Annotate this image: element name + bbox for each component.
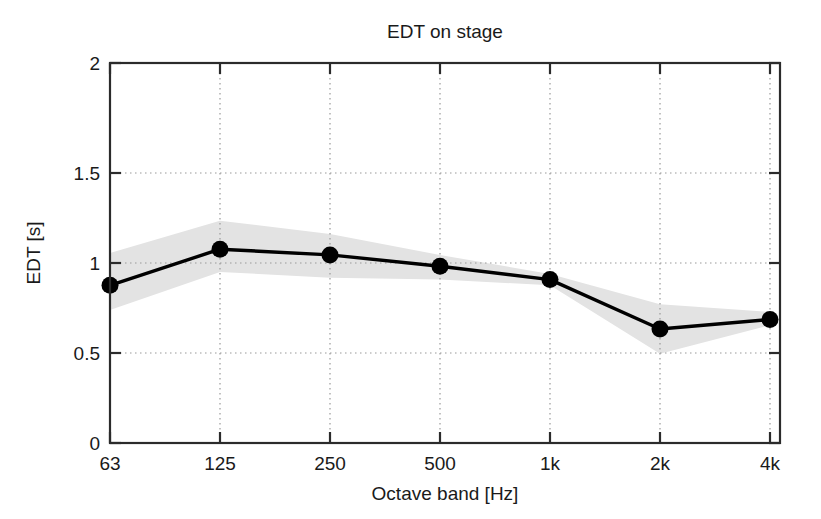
data-point-2k bbox=[652, 321, 669, 338]
y-tick-label-2: 2 bbox=[89, 53, 100, 74]
x-tick-label-4k: 4k bbox=[760, 453, 781, 474]
data-point-500 bbox=[432, 258, 449, 275]
data-point-125 bbox=[212, 241, 229, 258]
x-tick-label-500: 500 bbox=[424, 453, 456, 474]
y-tick-label-1p5: 1.5 bbox=[74, 163, 100, 184]
chart-figure: EDT on stage bbox=[0, 0, 821, 519]
data-point-1k bbox=[542, 271, 559, 288]
data-point-250 bbox=[322, 246, 339, 263]
x-tick-label-63: 63 bbox=[99, 453, 120, 474]
x-axis-label: Octave band [Hz] bbox=[372, 483, 519, 504]
chart-title: EDT on stage bbox=[387, 21, 503, 42]
y-tick-label-0: 0 bbox=[89, 433, 100, 454]
x-tick-label-250: 250 bbox=[314, 453, 346, 474]
y-axis-label: EDT [s] bbox=[23, 222, 44, 285]
data-point-4k bbox=[762, 311, 779, 328]
x-tick-label-125: 125 bbox=[204, 453, 236, 474]
y-tick-label-0p5: 0.5 bbox=[74, 343, 100, 364]
x-tick-label-1k: 1k bbox=[540, 453, 561, 474]
x-tick-label-2k: 2k bbox=[650, 453, 671, 474]
y-tick-label-1: 1 bbox=[89, 253, 100, 274]
edt-on-stage-chart: EDT on stage bbox=[0, 0, 821, 519]
